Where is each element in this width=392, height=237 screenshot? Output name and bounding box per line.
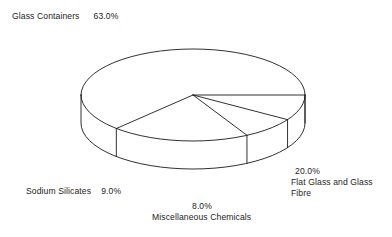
pie-radius-1 [116, 95, 193, 129]
pie-side-wall [81, 95, 305, 169]
pie-chart-figure: Glass Containers63.0% Sodium Silicates9.… [0, 0, 392, 237]
slice-label-sodium-silicates-percent: 9.0% [101, 186, 121, 196]
slice-label-flat-glass-percent: 20.0% [295, 166, 387, 177]
slice-label-flat-glass-name-line-2: Fibre [291, 188, 387, 199]
pie-radius-2 [193, 95, 247, 135]
pie-3d-wireframe [81, 49, 305, 169]
slice-label-sodium-silicates-name: Sodium Silicates [26, 186, 91, 196]
slice-label-glass-containers-percent: 63.0% [94, 11, 119, 21]
slice-label-miscellaneous-chemicals-percent: 8.0% [192, 201, 251, 212]
slice-label-glass-containers: Glass Containers63.0% [12, 11, 118, 22]
slice-label-glass-containers-name: Glass Containers [12, 11, 80, 21]
slice-label-flat-glass-and-glass-fibre: 20.0% Flat Glass and Glass Fibre [291, 166, 387, 199]
slice-label-miscellaneous-chemicals-name: Miscellaneous Chemicals [152, 212, 251, 223]
slice-label-miscellaneous-chemicals: 8.0% Miscellaneous Chemicals [152, 201, 251, 223]
slice-label-sodium-silicates: Sodium Silicates9.0% [26, 186, 121, 197]
pie-radius-3 [193, 95, 288, 120]
slice-label-flat-glass-name-line-1: Flat Glass and Glass [291, 177, 387, 188]
